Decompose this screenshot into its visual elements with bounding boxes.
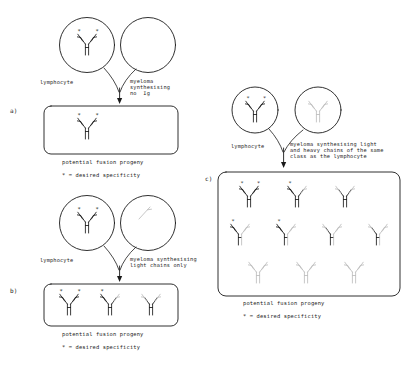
svg-text:*: * xyxy=(78,112,81,118)
b-lymphocyte-antibody xyxy=(77,212,96,233)
svg-text:*: * xyxy=(78,206,81,212)
a-myeloma-cell xyxy=(121,18,176,73)
c-progeny-antibody-r2c4 xyxy=(368,224,387,245)
b-myeloma-light-chain xyxy=(139,207,152,219)
b-progeny-antibody-1 xyxy=(59,294,78,315)
panel-a-lymphocyte-label: lymphocyte xyxy=(40,79,73,85)
c-myeloma-cell xyxy=(295,87,341,133)
b-lymphocyte-cell xyxy=(60,196,115,251)
panel-c-progeny-caption: potential fusion progeny xyxy=(243,300,325,306)
c-progeny-antibody-r1c1 xyxy=(239,186,258,207)
svg-text:*: * xyxy=(96,112,99,118)
svg-text:*: * xyxy=(278,218,281,224)
panel-a-marker: a) xyxy=(10,108,18,114)
c-progeny-antibody-r1c2 xyxy=(287,186,306,207)
svg-text:*: * xyxy=(101,288,104,294)
panel-b-myeloma-label-line2: light chains only xyxy=(130,262,187,268)
b-progeny-antibody-2 xyxy=(100,294,119,315)
svg-text:*: * xyxy=(60,288,63,294)
svg-text:*: * xyxy=(263,95,266,101)
c-progeny-antibody-r2c3 xyxy=(322,224,341,245)
c-myeloma-antibody xyxy=(308,101,327,122)
panel-a-myeloma-label-line3: no Ig xyxy=(130,90,150,96)
svg-text:*: * xyxy=(241,180,244,186)
b-progeny-box xyxy=(44,284,178,326)
panel-c-lymphocyte-label: lymphocyte xyxy=(231,143,264,149)
panel-c-marker: c) xyxy=(205,176,213,182)
svg-text:*: * xyxy=(96,206,99,212)
c-progeny-antibody-r1c3 xyxy=(335,186,354,207)
svg-text:*: * xyxy=(289,180,292,186)
svg-text:*: * xyxy=(78,28,81,34)
c-progeny-antibody-r3c1 xyxy=(248,262,267,283)
panel-c-key: * = desired specificity xyxy=(243,313,321,319)
svg-text:*: * xyxy=(78,288,81,294)
c-progeny-antibody-r2c1 xyxy=(230,224,249,245)
panel-a-progeny-caption: potential fusion progeny xyxy=(62,159,144,165)
panel-b-progeny-caption: potential fusion progeny xyxy=(62,331,144,337)
panel-a-key: * = desired specificity xyxy=(62,172,140,178)
c-progeny-antibody-r3c2 xyxy=(296,262,315,283)
c-progeny-antibody-r3c3 xyxy=(344,262,363,283)
figure-artwork: * * * * * * xyxy=(0,0,415,373)
panel-c-myeloma-label-line3: class as the lymphocyte xyxy=(290,153,367,159)
svg-text:*: * xyxy=(247,95,250,101)
svg-text:*: * xyxy=(257,180,260,186)
b-progeny-antibody-3 xyxy=(141,294,160,315)
c-progeny-box xyxy=(218,172,400,296)
panel-b-key: * = desired specificity xyxy=(62,344,140,350)
c-lymphocyte-cell xyxy=(232,87,278,133)
panel-b-lymphocyte-label: lymphocyte xyxy=(40,257,73,263)
svg-text:*: * xyxy=(232,218,235,224)
a-progeny-box xyxy=(44,106,178,154)
a-progeny-antibody-1 xyxy=(77,118,96,139)
b-myeloma-cell xyxy=(121,196,176,251)
c-progeny-antibody-r2c2 xyxy=(276,224,295,245)
a-lymphocyte-cell xyxy=(60,18,115,73)
a-lymphocyte-antibody xyxy=(77,34,96,55)
panel-b-marker: b) xyxy=(10,288,18,294)
svg-text:*: * xyxy=(96,28,99,34)
c-lymphocyte-antibody xyxy=(245,101,264,122)
